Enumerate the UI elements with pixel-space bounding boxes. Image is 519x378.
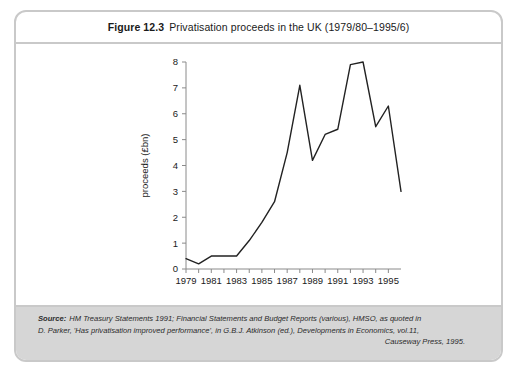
x-tick-label: 1991 (327, 275, 348, 286)
source-line-2: D. Parker, 'Has privatisation improved p… (38, 325, 479, 337)
y-tick-label: 8 (173, 56, 178, 67)
x-tick-label: 1993 (352, 275, 373, 286)
y-tick-label: 5 (173, 134, 178, 145)
data-series-line (186, 62, 401, 264)
y-tick-label: 2 (173, 212, 178, 223)
x-tick-label: 1995 (378, 275, 399, 286)
y-axis-label: proceeds (£bn) (139, 134, 150, 198)
x-tick-label: 1983 (226, 275, 247, 286)
source-caption: Source:HM Treasury Statements 1991; Fina… (16, 307, 501, 360)
chart-plot-region: 012345678 197919811983198519871989199119… (16, 44, 501, 305)
page-title: Figure 12.3Privatisation proceeds in the… (108, 21, 410, 33)
series-path (186, 62, 401, 264)
y-tick-label: 4 (173, 160, 178, 171)
figure-number: Figure 12.3 (108, 21, 165, 33)
y-tick-label: 7 (173, 82, 178, 93)
figure-title-bar: Figure 12.3Privatisation proceeds in the… (16, 12, 501, 42)
x-axis-tick-labels: 197919811983198519871989199119931995 (175, 275, 398, 286)
chart-ticks (182, 62, 388, 273)
y-tick-label: 1 (173, 238, 178, 249)
source-text-1: HM Treasury Statements 1991; Financial S… (69, 314, 421, 323)
figure-frame: Figure 12.3Privatisation proceeds in the… (14, 10, 503, 362)
x-tick-label: 1987 (277, 275, 298, 286)
x-tick-label: 1981 (201, 275, 222, 286)
y-axis-tick-labels: 012345678 (173, 56, 178, 274)
line-chart: 012345678 197919811983198519871989199119… (16, 44, 501, 309)
source-line-1: Source:HM Treasury Statements 1991; Fina… (38, 313, 479, 325)
source-label: Source: (38, 314, 66, 323)
y-tick-label: 6 (173, 108, 178, 119)
source-line-3: Causeway Press, 1995. (38, 336, 479, 348)
x-tick-label: 1979 (175, 275, 196, 286)
y-tick-label: 0 (173, 263, 178, 274)
x-tick-label: 1989 (302, 275, 323, 286)
figure-title-text: Privatisation proceeds in the UK (1979/8… (169, 21, 409, 33)
x-tick-label: 1985 (251, 275, 272, 286)
y-tick-label: 3 (173, 186, 178, 197)
